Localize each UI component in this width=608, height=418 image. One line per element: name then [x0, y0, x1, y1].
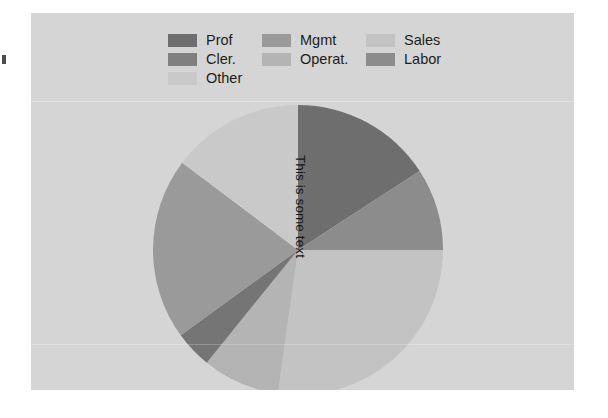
chart-canvas: This is some text ProfMgmtSalesCler.Oper… [31, 13, 574, 390]
legend-label: Operat. [300, 52, 348, 67]
legend-item-sales[interactable]: Sales [366, 31, 460, 50]
chart-legend: ProfMgmtSalesCler.Operat.LaborOther [168, 31, 498, 88]
legend-label: Prof [206, 33, 233, 48]
legend-item-cler[interactable]: Cler. [168, 50, 262, 69]
legend-item-operat[interactable]: Operat. [262, 50, 366, 69]
legend-swatch-icon [262, 34, 291, 47]
chart-page: This is some text ProfMgmtSalesCler.Oper… [0, 0, 608, 418]
legend-item-other[interactable]: Other [168, 69, 262, 88]
legend-label: Labor [404, 52, 441, 67]
legend-swatch-icon [168, 34, 197, 47]
legend-item-labor[interactable]: Labor [366, 50, 460, 69]
legend-label: Mgmt [300, 33, 336, 48]
legend-label: Sales [404, 33, 440, 48]
pie-slice-sales[interactable] [278, 250, 443, 390]
legend-swatch-icon [168, 72, 197, 85]
legend-swatch-icon [366, 53, 395, 66]
legend-item-mgmt[interactable]: Mgmt [262, 31, 366, 50]
pie-annotation-text: This is some text [293, 155, 308, 258]
page-edge-speck [2, 55, 6, 64]
legend-item-prof[interactable]: Prof [168, 31, 262, 50]
legend-swatch-icon [262, 53, 291, 66]
legend-swatch-icon [168, 53, 197, 66]
legend-label: Other [206, 71, 242, 86]
legend-swatch-icon [366, 34, 395, 47]
legend-label: Cler. [206, 52, 236, 67]
